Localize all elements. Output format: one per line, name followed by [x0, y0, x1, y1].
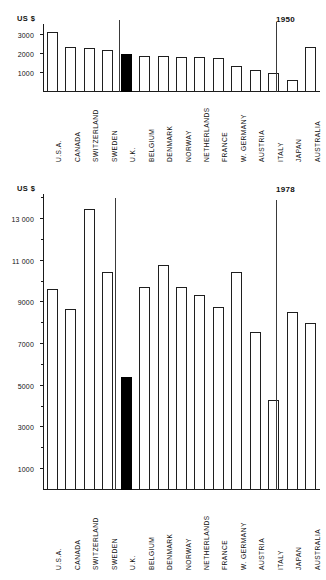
y-axis-tick-label-9000: 9000	[18, 299, 34, 306]
bar-1978-norway	[176, 287, 187, 490]
bar-1950-france	[213, 58, 224, 92]
x-axis-labels-1950: U.S.A.CANADASWITZERLANDSWEDENU.K.BELGIUM…	[43, 96, 326, 166]
bar-1978-sweden	[102, 272, 113, 490]
chart-panel-1978: US $ 1978 1000300050007000900011 00013 0…	[0, 172, 326, 580]
bar-1978-wgermany	[231, 272, 242, 490]
bar-1950-japan	[287, 80, 298, 92]
bar-1978-japan	[287, 312, 298, 490]
bar-1978-denmark	[158, 265, 169, 490]
x-axis-label-norway: NORWAY	[185, 538, 192, 570]
x-axis-label-belgium: BELGIUM	[148, 129, 155, 162]
x-axis-label-uk: U.K.	[129, 555, 136, 570]
y-axis-tick-label-3000: 3000	[18, 424, 34, 431]
x-axis-labels-1978: U.S.A.CANADASWITZERLANDSWEDENU.K.BELGIUM…	[43, 494, 326, 574]
y-axis-tick-label-11000: 11 000	[12, 257, 34, 264]
x-axis-label-wgermany: W. GERMANY	[240, 114, 247, 162]
y-axis-tick-11000	[40, 260, 44, 261]
bar-1978-belgium	[139, 287, 150, 490]
y-axis-minor-tick-4000	[41, 406, 44, 407]
x-axis-label-wgermany: W. GERMANY	[240, 522, 247, 570]
y-axis-tick-7000	[40, 343, 44, 344]
y-axis-tick-label-7000: 7000	[18, 341, 34, 348]
plot-area-1950: 100020003000	[43, 24, 320, 92]
bar-1950-switzerland	[84, 48, 95, 92]
x-axis-label-sweden: SWEDEN	[111, 130, 118, 162]
scan-artifact-spike-2	[276, 200, 277, 490]
year-label-1950: 1950	[276, 15, 295, 24]
bars-group-1978	[43, 194, 320, 490]
chart-panel-1950: US $ 1950 100020003000 U.S.A.CANADASWITZ…	[0, 0, 326, 172]
bar-1950-sweden	[102, 50, 113, 92]
x-axis-label-usa: U.S.A.	[55, 140, 62, 162]
y-axis-tick-label-1000: 1000	[18, 466, 34, 473]
scan-artifact-spike-1	[119, 20, 120, 92]
y-axis-tick-label-5000: 5000	[18, 382, 34, 389]
y-axis-minor-tick-14000	[41, 197, 44, 198]
bar-1950-belgium	[139, 56, 150, 92]
x-axis-label-japan: JAPAN	[295, 547, 302, 570]
y-axis-tick-3000	[40, 426, 44, 427]
x-axis-label-norway: NORWAY	[185, 130, 192, 162]
y-axis-tick-label-1000: 1000	[18, 70, 34, 77]
x-axis-label-italy: ITALY	[277, 142, 284, 162]
bar-1950-canada	[65, 47, 76, 92]
x-axis-label-canada: CANADA	[74, 540, 81, 570]
x-axis-label-austria: AUSTRIA	[258, 130, 265, 162]
bar-1978-australia	[305, 323, 316, 490]
y-axis-minor-tick-6000	[41, 364, 44, 365]
x-axis-label-canada: CANADA	[74, 132, 81, 162]
bar-1950-norway	[176, 57, 187, 92]
x-axis-label-austria: AUSTRIA	[258, 538, 265, 570]
y-axis-tick-1000	[40, 72, 44, 73]
bar-1950-austria	[250, 70, 261, 92]
x-axis-label-belgium: BELGIUM	[148, 537, 155, 570]
bar-1950-wgermany	[231, 66, 242, 92]
y-axis-tick-label-13000: 13 000	[11, 216, 34, 223]
bar-1978-france	[213, 307, 224, 490]
y-axis-minor-tick-12000	[41, 239, 44, 240]
y-axis-tick-1000	[40, 468, 44, 469]
bar-1978-canada	[65, 309, 76, 490]
x-axis-label-switzerland: SWITZERLAND	[92, 517, 99, 570]
y-axis-minor-tick-10000	[41, 281, 44, 282]
x-axis-label-netherlands: NETHERLANDS	[203, 515, 210, 570]
bar-1950-usa	[47, 32, 58, 92]
scan-artifact-spike-2	[276, 22, 277, 92]
y-axis-tick-5000	[40, 385, 44, 386]
y-axis-tick-label-2000: 2000	[18, 51, 34, 58]
x-axis-label-switzerland: SWITZERLAND	[92, 109, 99, 162]
x-axis-label-sweden: SWEDEN	[111, 538, 118, 570]
y-axis-unit-label-1950: US $	[17, 14, 35, 23]
bar-1978-switzerland	[84, 209, 95, 490]
plot-area-1978: 1000300050007000900011 00013 000	[43, 194, 320, 490]
bar-1950-denmark	[158, 56, 169, 92]
bar-1950-italy	[268, 73, 279, 92]
x-axis-label-italy: ITALY	[277, 550, 284, 570]
bar-1978-netherlands	[194, 295, 205, 490]
x-axis-label-france: FRANCE	[221, 540, 228, 570]
x-axis-label-australia: AUSTRALIA	[314, 121, 321, 162]
y-axis-tick-9000	[40, 301, 44, 302]
y-axis-tick-13000	[40, 218, 44, 219]
x-axis-label-netherlands: NETHERLANDS	[203, 107, 210, 162]
x-axis-label-australia: AUSTRALIA	[314, 529, 321, 570]
x-axis-label-uk: U.K.	[129, 147, 136, 162]
y-axis-unit-label-1978: US $	[17, 184, 35, 193]
x-axis-label-usa: U.S.A.	[55, 548, 62, 570]
bar-1950-uk	[121, 54, 132, 92]
bar-1950-australia	[305, 47, 316, 92]
bar-1978-usa	[47, 289, 58, 490]
y-axis-tick-label-3000: 3000	[18, 32, 34, 39]
year-label-1978: 1978	[276, 185, 295, 194]
y-axis-tick-2000	[40, 53, 44, 54]
bar-chart-figure: US $ 1950 100020003000 U.S.A.CANADASWITZ…	[0, 0, 326, 580]
bars-group-1950	[43, 24, 320, 92]
x-axis-label-france: FRANCE	[221, 132, 228, 162]
bar-1978-italy	[268, 400, 279, 490]
x-axis-label-denmark: DENMARK	[166, 534, 173, 570]
y-axis-minor-tick-8000	[41, 322, 44, 323]
y-axis-minor-tick-2000	[41, 447, 44, 448]
x-axis-label-japan: JAPAN	[295, 139, 302, 162]
bar-1978-austria	[250, 332, 261, 490]
scan-artifact-spike-1	[115, 198, 116, 490]
